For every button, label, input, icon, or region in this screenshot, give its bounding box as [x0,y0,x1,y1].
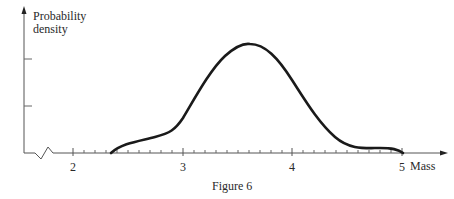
y-axis-arrow-icon [22,6,27,14]
x-tick-label-2: 2 [70,160,76,175]
x-tick-label-4: 4 [289,160,295,175]
y-axis-label: Probability density [33,10,86,36]
x-tick-label-5: 5 [399,160,405,175]
x-tick-label-3: 3 [180,160,186,175]
figure-caption: Figure 6 [212,180,252,193]
x-axis-arrow-icon [440,151,448,156]
x-axis-break [24,147,60,159]
density-curve [111,44,403,153]
x-axis-label: Mass [410,160,435,173]
y-axis-label-line2: density [33,23,86,36]
